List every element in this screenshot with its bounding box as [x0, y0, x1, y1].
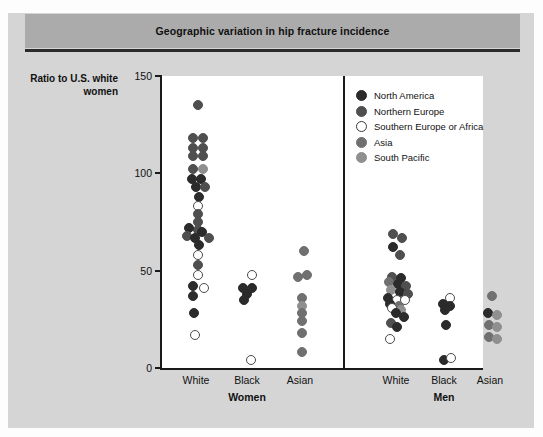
x-axis-tick-label: Asian — [287, 374, 313, 386]
legend-item-label: South Pacific — [374, 152, 429, 163]
x-axis-tick-label: White — [383, 374, 410, 386]
figure-title: Geographic variation in hip fracture inc… — [25, 14, 520, 48]
scatter-point — [239, 295, 249, 305]
x-axis-group-label: Women — [228, 391, 266, 403]
scatter-point — [188, 164, 198, 174]
legend-marker-icon — [356, 137, 367, 148]
y-axis-title: Ratio to U.S. white women — [14, 72, 118, 98]
y-axis-tick-label: 50 — [116, 265, 152, 277]
scatter-point — [297, 347, 307, 357]
chart-legend: North AmericaNorthern EuropeSouthern Eur… — [356, 88, 486, 166]
x-axis-tick-label: White — [183, 374, 210, 386]
y-axis-tick — [155, 172, 162, 174]
scatter-point — [188, 133, 198, 143]
scatter-point — [492, 310, 502, 320]
scatter-point — [188, 281, 198, 291]
x-axis-tick-label: Black — [234, 374, 260, 386]
y-axis-tick — [155, 75, 162, 77]
legend-item-label: North America — [374, 90, 434, 101]
y-axis-title-line2: women — [14, 85, 118, 98]
title-band: Geographic variation in hip fracture inc… — [25, 14, 520, 48]
x-axis-tick-label: Black — [431, 374, 457, 386]
legend-item: North America — [356, 88, 486, 104]
scatter-point — [247, 270, 257, 280]
y-axis-tick-label: 0 — [116, 362, 152, 374]
page-margin-left — [0, 0, 8, 437]
scatter-point — [399, 312, 409, 322]
scatter-point — [199, 283, 209, 293]
scatter-point — [188, 151, 198, 161]
scatter-point — [193, 260, 203, 270]
y-axis-tick — [155, 270, 162, 272]
legend-item: Northern Europe — [356, 104, 486, 120]
scatter-point — [204, 233, 214, 243]
scatter-point — [193, 250, 203, 260]
x-axis-tick-label: Asian — [477, 374, 503, 386]
x-axis-group-label: Men — [434, 391, 455, 403]
page-margin-right — [534, 0, 543, 437]
legend-item: Southern Europe or Africa — [356, 119, 486, 135]
scatter-point — [188, 291, 198, 301]
scatter-point — [492, 334, 502, 344]
panel-divider — [343, 76, 345, 368]
y-axis-tick-label: 100 — [116, 167, 152, 179]
scatter-point — [487, 291, 497, 301]
scatter-point — [200, 182, 210, 192]
scatter-point — [198, 151, 208, 161]
page-margin-top — [0, 0, 543, 13]
scatter-point — [246, 355, 256, 365]
legend-item-label: Asia — [374, 137, 392, 148]
scatter-point — [198, 164, 208, 174]
legend-item-label: Northern Europe — [374, 106, 444, 117]
scatter-point — [302, 270, 312, 280]
scatter-point — [194, 240, 204, 250]
legend-item: South Pacific — [356, 150, 486, 166]
legend-item: Asia — [356, 135, 486, 151]
y-axis-tick-label: 150 — [116, 70, 152, 82]
scatter-point — [299, 246, 309, 256]
y-axis-tick — [155, 367, 162, 369]
legend-item-label: Southern Europe or Africa — [374, 121, 483, 132]
scatter-point — [385, 334, 395, 344]
page-margin-bottom — [0, 428, 543, 437]
scatter-point — [395, 250, 405, 260]
scatter-point — [189, 308, 199, 318]
y-axis-title-line1: Ratio to U.S. white — [14, 72, 118, 85]
scatter-point — [190, 330, 200, 340]
scatter-point — [392, 322, 402, 332]
title-underline-rule — [25, 49, 520, 52]
scatter-point — [198, 133, 208, 143]
scatter-point — [194, 192, 204, 202]
scatter-point — [193, 270, 203, 280]
legend-marker-icon — [356, 121, 367, 132]
scatter-point — [441, 320, 451, 330]
plot-area: 050100150 North AmericaNorthern EuropeSo… — [160, 76, 483, 370]
legend-marker-icon — [356, 90, 367, 101]
scatter-point — [440, 305, 450, 315]
scatter-point — [446, 353, 456, 363]
scatter-point — [492, 322, 502, 332]
figure-canvas: Geographic variation in hip fracture inc… — [0, 0, 543, 437]
legend-marker-icon — [356, 152, 367, 163]
scatter-point — [297, 316, 307, 326]
legend-marker-icon — [356, 106, 367, 117]
scatter-point — [397, 233, 407, 243]
scatter-point — [193, 100, 203, 110]
scatter-point — [297, 328, 307, 338]
